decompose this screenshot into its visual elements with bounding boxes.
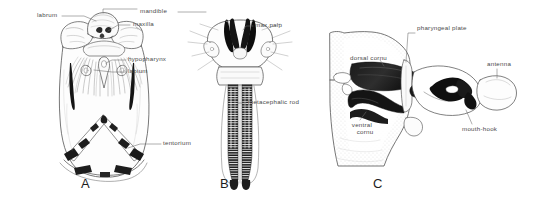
- label-mouth-hook: mouth-hook: [462, 125, 497, 132]
- label-tentorium: tentorium: [163, 139, 191, 146]
- scientific-figure-larval-head-morphology: labrum mandible maxilla hypopharynx labi…: [0, 0, 536, 203]
- label-pharyngeal-plate: pharyngeal plate: [417, 24, 467, 31]
- label-labrum: labrum: [37, 11, 57, 18]
- panel-letter-b: B: [220, 176, 229, 191]
- label-max-palp: max.palp: [255, 21, 282, 28]
- label-antenna: antenna: [487, 60, 511, 67]
- label-hypopharynx: hypopharynx: [128, 55, 166, 62]
- label-dorsal-cornu: dorsal cornu: [350, 54, 387, 61]
- panel-a-drawing: [59, 13, 149, 182]
- panel-letter-c: C: [373, 176, 382, 191]
- panel-c-drawing: [330, 32, 517, 167]
- label-labium: labium: [128, 67, 148, 74]
- label-maxilla: maxilla: [133, 20, 154, 27]
- label-ventral-cornu-line2: cornu: [348, 128, 382, 135]
- panel-letter-a: A: [81, 176, 90, 191]
- label-mandible: mandible: [140, 7, 167, 14]
- label-metacephalic-rod: metacephalic rod: [248, 98, 299, 105]
